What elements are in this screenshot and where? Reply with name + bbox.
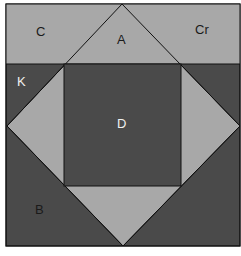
label-A: A [117, 32, 126, 47]
label-C: C [36, 24, 45, 39]
label-D: D [117, 116, 126, 131]
label-K: K [17, 74, 26, 89]
quilt-block-diagram: C A Cr K D B [0, 0, 241, 256]
label-Cr: Cr [195, 22, 209, 37]
label-B: B [35, 202, 44, 217]
